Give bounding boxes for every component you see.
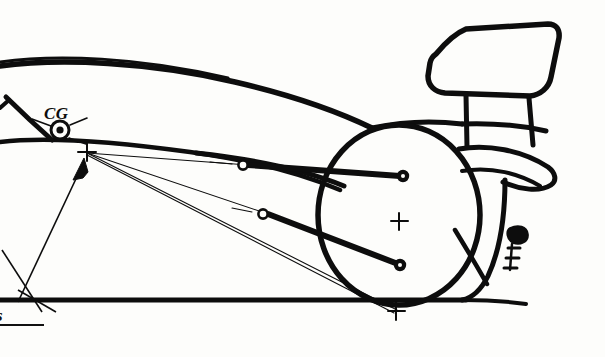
upper-pivot-lead-line (210, 162, 232, 164)
roll-center-height-label: s (0, 306, 44, 326)
dimension-arrow-head (73, 158, 88, 180)
cg-inner-dot (56, 126, 63, 133)
left-edge-body-tick (0, 100, 9, 108)
rear-wing-support-left (466, 95, 467, 147)
dimension-arrow-shaft (18, 166, 82, 302)
upper-inboard-pivot (238, 160, 247, 169)
sidepod-top-line (0, 140, 340, 190)
roll-center-height-underline (0, 324, 44, 326)
diffuser-trailing-edge (462, 300, 526, 304)
rear-wing-main-plane (428, 24, 559, 96)
sketch-canvas: CG s (0, 0, 605, 357)
suspension-geometry-drawing (0, 0, 605, 357)
roll-axis-line (87, 155, 394, 313)
contact-patch-projection-line (87, 153, 397, 310)
lower-outboard-pivot-ring (398, 263, 402, 267)
lower-inboard-pivot (258, 209, 267, 218)
rear-wing-support-right (529, 98, 533, 145)
rear-detail-blob (507, 226, 528, 244)
upper-outboard-pivot-ring (401, 174, 405, 178)
dimension-vee-leg (2, 250, 42, 312)
rear-mechanical-details (504, 226, 528, 270)
roll-center-height-arrow (2, 158, 88, 312)
rear-bodywork-group (455, 124, 555, 304)
lower-pivot-lead-line (232, 208, 252, 212)
cg-label: CG (44, 104, 69, 124)
cg-tick-right (70, 118, 87, 125)
roll-center-height-label-text: s (0, 306, 3, 325)
lower-control-arm (268, 214, 398, 264)
